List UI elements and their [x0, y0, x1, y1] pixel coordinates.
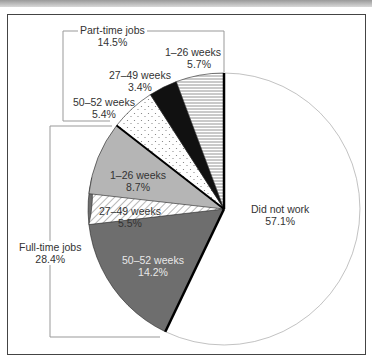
label-pt-27-49: 27–49 weeks 3.4%: [109, 69, 171, 93]
label-part-time: Part-time jobs 14.5%: [78, 24, 147, 48]
label-did-not-work-title: Did not work: [251, 203, 309, 215]
label-ft-50-52-title: 50–52 weeks: [122, 254, 184, 266]
label-part-time-title: Part-time jobs: [80, 24, 145, 36]
label-ft-27-49-title: 27–49 weeks: [99, 205, 161, 217]
label-full-time-title: Full-time jobs: [19, 241, 81, 253]
label-did-not-work-pct: 57.1%: [251, 215, 309, 227]
label-did-not-work: Did not work 57.1%: [251, 203, 309, 227]
label-ft-1-26-pct: 8.7%: [110, 181, 166, 193]
label-pt-1-26: 1–26 weeks 5.7%: [165, 46, 221, 70]
label-pt-27-49-title: 27–49 weeks: [109, 69, 171, 81]
label-ft-1-26-title: 1–26 weeks: [110, 169, 166, 181]
label-pt-27-49-pct: 3.4%: [109, 81, 171, 93]
label-pt-1-26-pct: 5.7%: [165, 58, 221, 70]
label-pt-1-26-title: 1–26 weeks: [165, 46, 221, 58]
label-ft-1-26: 1–26 weeks 8.7%: [110, 169, 166, 193]
label-part-time-pct: 14.5%: [80, 36, 145, 48]
label-pt-50-52: 50–52 weeks 5.4%: [73, 96, 135, 120]
label-pt-50-52-title: 50–52 weeks: [73, 96, 135, 108]
label-full-time-pct: 28.4%: [19, 253, 81, 265]
label-full-time: Full-time jobs 28.4%: [17, 241, 83, 265]
label-ft-50-52-pct: 14.2%: [122, 266, 184, 278]
label-pt-50-52-pct: 5.4%: [73, 108, 135, 120]
label-ft-27-49-pct: 5.5%: [99, 217, 161, 229]
label-ft-50-52: 50–52 weeks 14.2%: [122, 254, 184, 278]
label-ft-27-49: 27–49 weeks 5.5%: [99, 205, 161, 229]
